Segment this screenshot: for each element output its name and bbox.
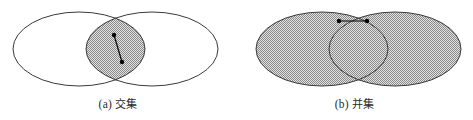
panel-a-group (13, 12, 218, 86)
intersection-segment-end-dot (120, 60, 124, 64)
caption-a-index: (a) (99, 98, 112, 110)
caption-panel-a: (a)交集 (0, 96, 236, 113)
union-segment-start-dot (337, 19, 341, 23)
union-segment-end-dot (365, 19, 369, 23)
figure-container: (a)交集 (b)并集 (0, 0, 473, 120)
panel-b-group (256, 12, 461, 86)
caption-panel-b: (b)并集 (236, 96, 473, 113)
intersection-segment-start-dot (112, 33, 116, 37)
caption-a-text: 交集 (115, 98, 137, 111)
caption-b-index: (b) (335, 98, 349, 110)
caption-b-text: 并集 (352, 98, 374, 111)
